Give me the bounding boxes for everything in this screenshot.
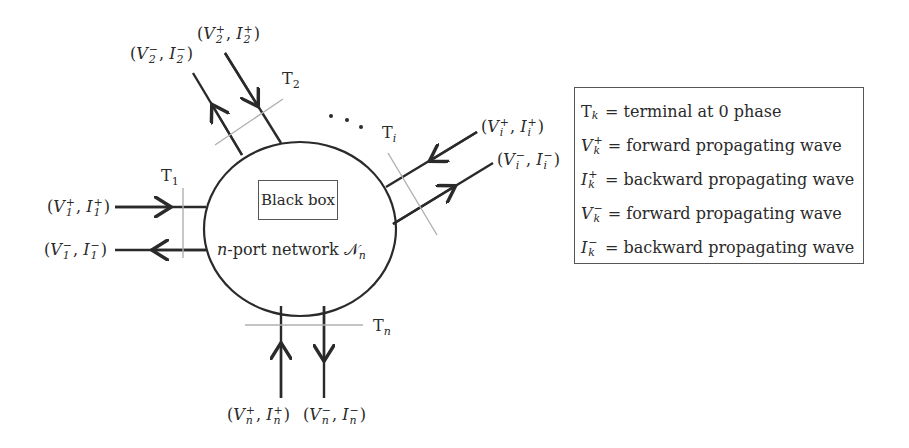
terminal-label-n: Tn	[373, 318, 391, 334]
legend-row-v-minus: V−k = forward propagating wave	[581, 196, 863, 230]
black-box-label: Black box	[261, 191, 335, 209]
legend-row-terminal: Tk = terminal at 0 phase	[581, 94, 863, 128]
terminal-label-i: Ti	[382, 125, 396, 141]
network-label-n: n	[217, 240, 227, 259]
network-ellipse	[204, 142, 396, 316]
network-symbol: 𝒩	[344, 240, 359, 259]
terminal-label-2: T2	[282, 71, 300, 87]
port-1	[115, 188, 206, 258]
port-i	[386, 132, 493, 235]
wave-label-i-incoming: (V+i, I+i)	[481, 117, 544, 138]
ellipsis-dots	[329, 114, 363, 129]
wave-label-1-outgoing: (V−1, I−1)	[44, 240, 107, 261]
wave-label-n-incoming: (V+n, I+n)	[227, 405, 290, 426]
legend-row-i-plus: I+k = backward propagating wave	[581, 162, 863, 196]
network-symbol-sub: n	[359, 249, 366, 262]
network-label: n-port network 𝒩n	[217, 240, 366, 259]
wave-label-1-incoming: (V+1, I+1)	[47, 197, 110, 218]
wave-label-i-outgoing: (V−i, I−i)	[497, 150, 560, 171]
network-label-text: -port network	[227, 240, 343, 259]
wave-label-2-outgoing: (V−2, I−2)	[130, 44, 193, 65]
legend-row-i-minus: I−k = backward propagating wave	[581, 230, 863, 264]
terminal-label-1: T1	[161, 168, 179, 184]
wave-label-n-outgoing: (V−n, I−n)	[303, 405, 366, 426]
wave-label-2-incoming: (V+2, I+2)	[197, 24, 260, 45]
black-box: Black box	[258, 180, 338, 220]
legend-box: Tk = terminal at 0 phase V+k = forward p…	[574, 87, 864, 264]
port-n	[245, 306, 363, 398]
legend-row-v-plus: V+k = forward propagating wave	[581, 128, 863, 162]
port-2	[193, 53, 283, 155]
